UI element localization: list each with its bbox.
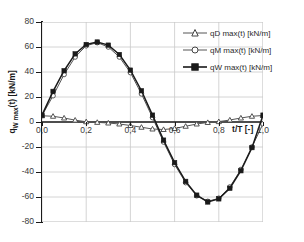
legend-label-qw: qW max(t) [kN/m]: [210, 63, 272, 72]
data-point-square: [73, 52, 77, 56]
x-axis-tick-label: 0,8: [207, 125, 231, 135]
y-axis-title-rest: (t) [kN/m]: [7, 70, 17, 107]
data-point-square: [139, 89, 143, 93]
data-point-square: [250, 145, 254, 149]
legend-item-qm: qM max(t) [kN/m]: [183, 45, 272, 55]
y-axis-tick-label: 20: [0, 92, 34, 100]
chart-legend: qD max(t) [kN/m] qM max(t) [kN/m] qW max…: [183, 28, 272, 72]
data-point-square: [217, 197, 221, 201]
data-point-square: [84, 42, 88, 46]
y-axis-tick-label: 60: [0, 42, 34, 50]
data-point-square: [128, 68, 132, 72]
legend-label-qm: qM max(t) [kN/m]: [210, 46, 271, 55]
data-point-square: [62, 69, 66, 73]
data-point-square: [228, 186, 232, 190]
data-point-square: [161, 138, 165, 142]
y-axis-title-main: q: [7, 128, 17, 133]
legend-item-qw: qW max(t) [kN/m]: [183, 62, 272, 72]
y-axis-tick-label: -80: [0, 217, 34, 225]
y-axis-tick-label: -40: [0, 167, 34, 175]
data-point-square: [117, 52, 121, 56]
data-point-square: [42, 113, 44, 117]
y-axis-tick-label: -20: [0, 142, 34, 150]
data-point-square: [206, 200, 210, 204]
legend-label-qd: qD max(t) [kN/m]: [210, 29, 270, 38]
chart-figure: qW max(t) [kN/m] 806040200-20-40-60-80 0…: [0, 0, 304, 242]
data-point-square: [150, 113, 154, 117]
x-axis-title: t/T [-]: [232, 124, 253, 134]
y-axis-tick-label: 80: [0, 17, 34, 25]
x-axis-tick-label: 1,0: [251, 125, 275, 135]
data-point-square: [106, 43, 110, 47]
data-point-square: [172, 160, 176, 164]
y-axis-tick-label: -60: [0, 192, 34, 200]
y-axis-tick-label: 0: [0, 117, 34, 125]
x-axis-tick-label: 0,2: [74, 125, 98, 135]
data-point-square: [95, 40, 99, 44]
legend-item-qd: qD max(t) [kN/m]: [183, 28, 272, 38]
data-point-square: [239, 169, 243, 173]
x-axis-tick-label: 0,4: [118, 125, 142, 135]
data-point-square: [261, 113, 263, 117]
legend-marker-circle-icon: [183, 45, 207, 55]
legend-marker-triangle-icon: [183, 28, 207, 38]
data-point-square: [183, 179, 187, 183]
x-axis-tick-label: 0,0: [30, 125, 54, 135]
x-axis-tick-label: 0,6: [163, 125, 187, 135]
legend-marker-square-icon: [183, 62, 207, 72]
data-point-square: [195, 193, 199, 197]
y-axis-tick-label: 40: [0, 67, 34, 75]
data-point-square: [51, 89, 55, 93]
